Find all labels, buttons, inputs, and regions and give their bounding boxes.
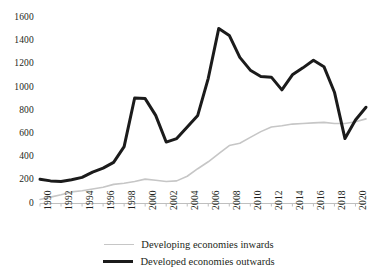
x-axis-tick-label: 2012 bbox=[275, 190, 285, 210]
y-axis-tick-label: 1600 bbox=[0, 13, 34, 23]
x-axis-tick-label: 2002 bbox=[170, 190, 180, 210]
y-axis-tick-label: 1400 bbox=[0, 36, 34, 46]
line-chart: 02004006008001000120014001600 1990199219… bbox=[0, 0, 378, 279]
series-line-developing-inwards bbox=[40, 119, 366, 200]
x-axis-tick-label: 1992 bbox=[65, 190, 75, 210]
x-axis-tick-label: 2010 bbox=[254, 190, 264, 210]
x-axis-tick-label: 2016 bbox=[317, 190, 327, 210]
y-axis-tick-label: 1200 bbox=[0, 59, 34, 69]
legend-label-developed-outwards: Developed economies outwards bbox=[140, 256, 274, 267]
x-axis-tick-label: 1998 bbox=[128, 190, 138, 210]
x-axis-tick-label: 2000 bbox=[149, 190, 159, 210]
legend-item-developed-outwards: Developed economies outwards bbox=[0, 253, 378, 270]
legend-label-developing-inwards: Developing economies inwards bbox=[141, 239, 273, 250]
x-axis-tick-label: 2014 bbox=[296, 190, 306, 210]
y-axis-tick-label: 1000 bbox=[0, 83, 34, 93]
y-axis-tick-label: 800 bbox=[0, 106, 34, 116]
chart-legend: Developing economies inwards Developed e… bbox=[0, 236, 378, 270]
y-axis-tick-label: 600 bbox=[0, 129, 34, 139]
y-axis-tick-label: 200 bbox=[0, 175, 34, 185]
x-axis-tick-label: 2008 bbox=[233, 190, 243, 210]
x-axis-tick-label: 1996 bbox=[107, 190, 117, 210]
y-axis-tick-label: 0 bbox=[0, 199, 34, 209]
x-axis-tick-label: 1994 bbox=[86, 190, 96, 210]
x-axis-tick-label: 2018 bbox=[338, 190, 348, 210]
x-axis-tick-label: 2004 bbox=[191, 190, 201, 210]
x-axis-tick-label: 2006 bbox=[212, 190, 222, 210]
legend-swatch-gray-line-icon bbox=[104, 244, 134, 246]
legend-item-developing-inwards: Developing economies inwards bbox=[0, 236, 378, 253]
y-axis-tick-label: 400 bbox=[0, 152, 34, 162]
legend-swatch-black-line-icon bbox=[103, 260, 133, 263]
x-axis-tick-label: 1990 bbox=[44, 190, 54, 210]
series-line-developed-outwards bbox=[40, 28, 366, 181]
x-axis-tick-label: 2020 bbox=[359, 190, 369, 210]
